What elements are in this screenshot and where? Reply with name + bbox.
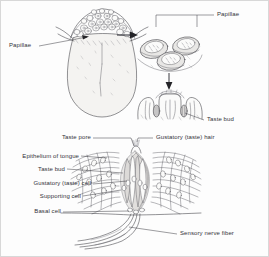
epithelium-nuclei-right [156,156,196,198]
anatomy-figure: Papillae Papillae Taste bud Taste pore G… [0,0,269,257]
label-epithelium-of-tongue: Epithelium of tongue [13,153,79,160]
label-sensory-nerve-fiber: Sensory nerve fiber [180,230,234,237]
label-papillae-left: Papillae [9,42,31,49]
label-gustatory-cell: Gustatory (taste) cell [11,180,91,187]
epithelium-nuclei-left [76,156,116,198]
label-papillae-right: Papillae [217,11,239,18]
label-basal-cell: Basal cell [19,208,61,215]
label-taste-bud-lower: Taste bud [23,166,65,173]
papillae-bumps [74,9,130,37]
label-taste-bud-upper: Taste bud [207,116,234,123]
papillae-closeup-illustration [138,35,202,71]
leader-papillae-right [156,15,214,27]
papilla-section-illustration [138,90,202,121]
sensory-nerve-fibers [75,214,140,249]
label-gustatory-hair: Gustatory (taste) hair [156,134,215,141]
label-supporting-cell: Supporting cell [17,193,81,200]
figure-artwork [1,1,269,257]
tongue-illustration [56,9,148,117]
label-taste-pore: Taste pore [55,134,91,141]
arrow-closeup-to-section [166,73,173,90]
